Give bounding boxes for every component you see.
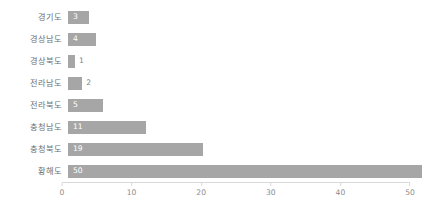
x-axis-tick: 50 [405,183,415,197]
x-axis-tick-mark [201,183,202,186]
bar[interactable]: 2 [68,77,82,90]
bar-track: 4 [68,28,422,50]
x-axis-tick-mark [62,183,63,186]
bar-value-label: 3 [73,13,78,21]
x-axis-tick: 40 [336,183,346,197]
x-axis-tick-mark [409,183,410,186]
category-label: 황해도 [0,167,68,175]
bar-track: 50 [68,160,422,182]
bar-value-label: 5 [73,101,78,109]
bar-rows: 경기도3경상남도4경상북도1전라남도2전라북도5충청남도11충청북도19황해도5… [0,6,426,182]
x-axis-tick-mark [340,183,341,186]
x-axis-tick-label: 50 [405,189,415,197]
bar-track: 11 [68,116,422,138]
bar-row: 전라남도2 [0,72,426,94]
bar-track: 3 [68,6,422,28]
x-axis-tick: 20 [196,183,206,197]
bar-track: 1 [68,50,422,72]
x-axis-tick-label: 0 [60,189,65,197]
bar-row: 경기도3 [0,6,426,28]
bar-value-label: 19 [73,145,83,153]
x-axis-tick-label: 20 [196,189,206,197]
bar-track: 2 [68,72,422,94]
bar[interactable]: 11 [68,121,146,134]
bar-row: 황해도50 [0,160,426,182]
bar-row: 경상남도4 [0,28,426,50]
category-label: 전라남도 [0,79,68,87]
bar-row: 충청북도19 [0,138,426,160]
x-axis-ticks: 01020304050 [62,183,410,203]
x-axis-tick: 30 [266,183,276,197]
bar-track: 5 [68,94,422,116]
x-axis-tick: 10 [127,183,137,197]
bar-chart: 경기도3경상남도4경상북도1전라남도2전라북도5충청남도11충청북도19황해도5… [0,0,426,214]
x-axis-tick-label: 10 [127,189,137,197]
bar-row: 전라북도5 [0,94,426,116]
category-label: 경기도 [0,13,68,21]
bar[interactable]: 5 [68,99,103,112]
bar-value-label: 2 [86,79,91,87]
category-label: 경상북도 [0,57,68,65]
x-axis-tick-mark [131,183,132,186]
x-axis-tick-label: 40 [336,189,346,197]
plot-area: 경기도3경상남도4경상북도1전라남도2전라북도5충청남도11충청북도19황해도5… [0,0,426,214]
bar-track: 19 [68,138,422,160]
x-axis-tick-mark [270,183,271,186]
bar[interactable]: 19 [68,143,203,156]
category-label: 충청북도 [0,145,68,153]
bar[interactable]: 3 [68,11,89,24]
category-label: 경상남도 [0,35,68,43]
bar-row: 충청남도11 [0,116,426,138]
bar[interactable]: 4 [68,33,96,46]
category-label: 전라북도 [0,101,68,109]
bar-row: 경상북도1 [0,50,426,72]
bar-value-label: 4 [73,35,78,43]
bar-value-label: 1 [79,57,84,65]
bar-value-label: 50 [73,167,83,175]
bar[interactable]: 1 [68,55,75,68]
bar[interactable]: 50 [68,165,422,178]
x-axis-tick-label: 30 [266,189,276,197]
x-axis-tick: 0 [60,183,65,197]
bar-value-label: 11 [73,123,83,131]
category-label: 충청남도 [0,123,68,131]
